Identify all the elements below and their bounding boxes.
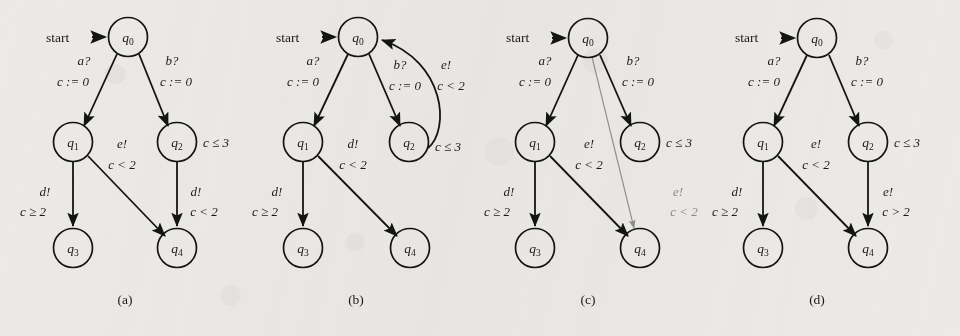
state-text-c-q1: q1	[529, 135, 541, 152]
edge-label-c-q0q1-guard: c := 0	[519, 74, 551, 89]
start-arrow-d: start	[735, 30, 794, 45]
state-text-d-q3: q3	[757, 241, 769, 258]
state-node-b-q2[interactable]: q2	[390, 123, 429, 162]
state-node-c-q0[interactable]: q0	[569, 19, 608, 58]
edge-label-a-q1q3-guard: c ≥ 2	[20, 204, 46, 219]
state-text-b-q4: q4	[404, 241, 416, 258]
edge-label-d-q0q2-guard: c := 0	[851, 74, 883, 89]
edge-label-a-q1q4-guard: c < 2	[108, 157, 136, 172]
state-node-a-q3[interactable]: q3	[54, 229, 93, 268]
state-node-b-q0[interactable]: q0	[339, 18, 378, 57]
start-arrow-a: start	[46, 30, 105, 45]
edge-label-d-q0q1-guard: c := 0	[748, 74, 780, 89]
state-text-b-q1: q1	[297, 135, 309, 152]
edge-label-c-q1q3-guard: c ≥ 2	[484, 204, 510, 219]
state-text-b-q3: q3	[297, 241, 309, 258]
state-text-d-q2: q2	[862, 135, 874, 152]
edge-label-d-q1q4-guard: c < 2	[802, 157, 830, 172]
panel-caption-c: (c)	[581, 292, 596, 307]
state-text-b-q2: q2	[403, 135, 415, 152]
edge-label-d-q1q3-action: d!	[732, 184, 743, 199]
state-node-d-q2[interactable]: q2	[849, 123, 888, 162]
state-text-c-q3: q3	[529, 241, 541, 258]
state-node-b-q1[interactable]: q1	[284, 123, 323, 162]
state-node-c-q1[interactable]: q1	[516, 123, 555, 162]
edge-label-d-q1q3-guard: c ≥ 2	[712, 204, 738, 219]
start-arrow-c: start	[506, 30, 565, 45]
state-node-a-q4[interactable]: q4	[158, 229, 197, 268]
start-label-c: start	[506, 30, 529, 45]
edge-label-b-q2q0-guard: c < 2	[437, 78, 465, 93]
edge-label-d-q0q1-action: a?	[768, 53, 782, 68]
state-node-c-q4[interactable]: q4	[621, 229, 660, 268]
edge-label-d-q1q4-action: e!	[811, 136, 821, 151]
state-node-a-q0[interactable]: q0	[109, 18, 148, 57]
state-node-d-q3[interactable]: q3	[744, 229, 783, 268]
state-node-b-q4[interactable]: q4	[391, 229, 430, 268]
edge-label-c-q0q4-guard: c < 2	[670, 204, 698, 219]
state-node-a-q2[interactable]: q2	[158, 123, 197, 162]
start-label-b: start	[276, 30, 299, 45]
edge-label-a-q0q2-guard: c := 0	[160, 74, 192, 89]
edge-label-a-q2q4-action: d!	[191, 184, 202, 199]
state-node-d-q0[interactable]: q0	[798, 19, 837, 58]
invariant-b-q2: c ≤ 3	[435, 139, 461, 154]
edge-label-c-q1q3-action: d!	[504, 184, 515, 199]
panel-d: start q0 q1 q2 q3 q4 a? c := 0 b?	[712, 19, 920, 308]
edge-label-b-q2q0-action: e!	[441, 57, 451, 72]
start-label-a: start	[46, 30, 69, 45]
edge-label-c-q1q4-guard: c < 2	[575, 157, 603, 172]
state-text-a-q0: q0	[122, 30, 134, 47]
state-node-c-q3[interactable]: q3	[516, 229, 555, 268]
edge-label-b-q0q2-action: b?	[394, 57, 408, 72]
edge-label-a-q1q3-action: d!	[40, 184, 51, 199]
edge-d-q0-q2	[829, 55, 859, 126]
edge-label-b-q1q3-action: d!	[272, 184, 283, 199]
state-text-b-q0: q0	[352, 30, 364, 47]
edge-label-a-q0q1-guard: c := 0	[57, 74, 89, 89]
automata-figure: start q0 q1 q2 q3 q4 a?	[0, 0, 960, 336]
edge-label-b-q1q3-guard: c ≥ 2	[252, 204, 278, 219]
edge-label-d-q0q2-action: b?	[856, 53, 870, 68]
edge-label-c-q0q2-action: b?	[627, 53, 641, 68]
panel-b: start q0 q1 q2 q3 q4 a? c := 0 b?	[252, 18, 465, 308]
state-text-a-q4: q4	[171, 241, 183, 258]
edge-label-b-q0q1-guard: c := 0	[287, 74, 319, 89]
state-node-d-q1[interactable]: q1	[744, 123, 783, 162]
edge-label-d-q2q4-guard: c > 2	[882, 204, 910, 219]
state-node-d-q4[interactable]: q4	[849, 229, 888, 268]
edge-label-d-q2q4-action: e!	[883, 184, 893, 199]
edge-label-c-q0q2-guard: c := 0	[622, 74, 654, 89]
edge-label-a-q2q4-guard: c < 2	[190, 204, 218, 219]
edge-label-c-q0q4-action: e!	[673, 184, 683, 199]
panel-caption-b: (b)	[348, 292, 364, 307]
edge-label-b-q0q2-guard: c := 0	[389, 78, 421, 93]
state-node-c-q2[interactable]: q2	[621, 123, 660, 162]
panel-a: start q0 q1 q2 q3 q4 a?	[20, 18, 229, 308]
state-node-b-q3[interactable]: q3	[284, 229, 323, 268]
edge-label-a-q0q1-action: a?	[78, 53, 92, 68]
state-text-d-q1: q1	[757, 135, 769, 152]
edge-label-c-q0q1-action: a?	[539, 53, 553, 68]
state-text-c-q2: q2	[634, 135, 646, 152]
panel-caption-a: (a)	[118, 292, 133, 307]
edge-label-a-q0q2-action: b?	[166, 53, 180, 68]
edge-label-b-q1q4-action: d!	[348, 136, 359, 151]
invariant-c-q2: c ≤ 3	[666, 135, 692, 150]
state-text-c-q0: q0	[582, 31, 594, 48]
state-text-d-q0: q0	[811, 31, 823, 48]
state-text-d-q4: q4	[862, 241, 874, 258]
invariant-d-q2: c ≤ 3	[894, 135, 920, 150]
invariant-a-q2: c ≤ 3	[203, 135, 229, 150]
start-label-d: start	[735, 30, 758, 45]
start-arrow-b: start	[276, 30, 335, 45]
panel-caption-d: (d)	[809, 292, 825, 307]
edge-label-b-q1q4-guard: c < 2	[339, 157, 367, 172]
edge-b-q2-q0-curved	[382, 40, 440, 148]
state-node-a-q1[interactable]: q1	[54, 123, 93, 162]
state-text-c-q4: q4	[634, 241, 646, 258]
panel-c: start q0 q1 q2 q3 q4 a? c := 0 b?	[484, 19, 698, 308]
state-text-a-q1: q1	[67, 135, 79, 152]
edge-label-a-q1q4-action: e!	[117, 136, 127, 151]
edge-label-c-q1q4-action: e!	[584, 136, 594, 151]
